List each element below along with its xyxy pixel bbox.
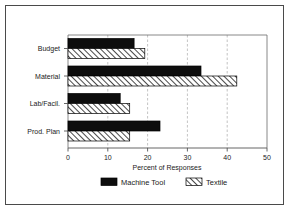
category-label-prod-plan: Prod. Plan: [27, 128, 60, 135]
bar-machine-tool-prod-plan: [68, 121, 160, 131]
x-tick-label-20: 20: [144, 154, 152, 161]
x-tick-label-30: 30: [184, 154, 192, 161]
y-axis-ticks: [64, 49, 68, 132]
category-label-budget: Budget: [38, 45, 60, 53]
bar-chart-canvas: Budget Material Lab/Facil. Prod. Plan 0 …: [0, 0, 290, 211]
legend-label-textile: Textile: [206, 178, 227, 187]
x-tick-label-50: 50: [263, 154, 271, 161]
bar-textile-prod-plan: [68, 131, 130, 141]
x-tick-label-0: 0: [66, 154, 70, 161]
x-axis-ticks: [68, 148, 267, 152]
x-tick-label-10: 10: [104, 154, 112, 161]
bar-group-lab-facil: [68, 94, 130, 114]
legend-label-machine-tool: Machine Tool: [121, 178, 165, 187]
solid-swatch-icon: [101, 178, 117, 186]
chart-legend: Machine Tool Textile: [101, 178, 227, 187]
bar-machine-tool-lab-facil: [68, 94, 120, 104]
chart-figure: Budget Material Lab/Facil. Prod. Plan 0 …: [0, 0, 290, 211]
x-axis-title: Percent of Responses: [133, 164, 202, 172]
hatch-swatch-icon: [186, 178, 202, 186]
category-label-lab-facil: Lab/Facil.: [30, 100, 60, 107]
bar-group-budget: [68, 39, 145, 59]
category-label-material: Material: [35, 73, 60, 80]
bar-machine-tool-budget: [68, 39, 134, 49]
bar-machine-tool-material: [68, 66, 201, 76]
bar-textile-lab-facil: [68, 104, 130, 114]
bar-textile-budget: [68, 49, 145, 59]
bar-textile-material: [68, 76, 237, 86]
x-tick-label-40: 40: [223, 154, 231, 161]
